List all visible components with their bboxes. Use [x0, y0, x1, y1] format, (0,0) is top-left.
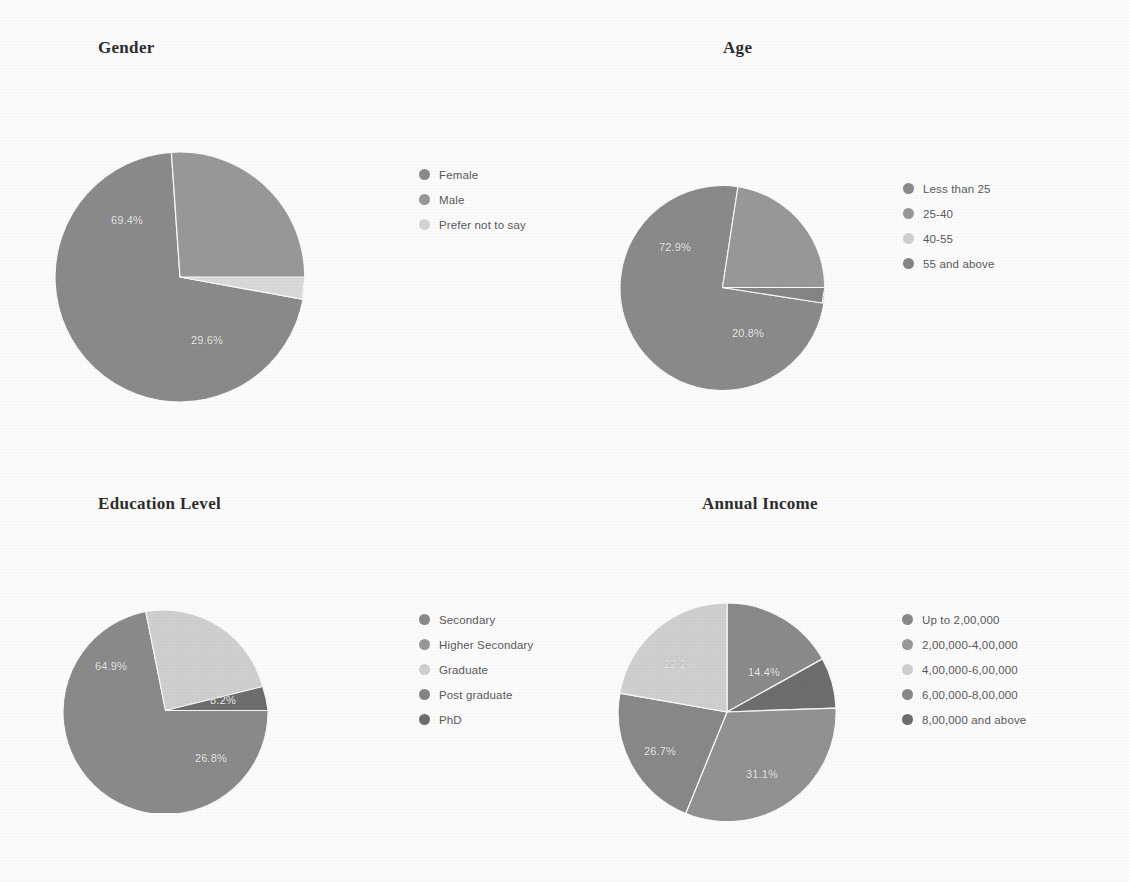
pie-label-4-to-6-lakh: 31.1% — [746, 768, 778, 780]
figure-sheet: Gender 69.4% 29.6% Female Male — [0, 0, 1130, 882]
chart-title-education: Education Level — [98, 494, 221, 514]
legend-swatch-2-to-4-lakh — [902, 639, 913, 650]
legend-swatch-up-to-2-lakh — [902, 614, 913, 625]
legend-gender: Female Male Prefer not to say — [419, 164, 526, 239]
legend-label-prefer-not-to-say: Prefer not to say — [439, 219, 526, 231]
legend-item-male[interactable]: Male — [419, 189, 526, 210]
legend-age: Less than 25 25-40 40-55 55 and above — [903, 178, 995, 278]
legend-item-secondary[interactable]: Secondary — [419, 609, 533, 630]
pie-gender-svg — [55, 152, 305, 402]
pie-label-female: 69.4% — [111, 214, 143, 226]
legend-item-40-55[interactable]: 40-55 — [903, 228, 995, 249]
legend-label-post-graduate: Post graduate — [439, 689, 513, 701]
legend-swatch-4-to-6-lakh — [902, 664, 913, 675]
legend-item-graduate[interactable]: Graduate — [419, 659, 533, 680]
legend-item-post-graduate[interactable]: Post graduate — [419, 684, 533, 705]
legend-swatch-male — [419, 194, 430, 205]
pie-label-graduate: 26.8% — [195, 752, 227, 764]
legend-swatch-prefer-not-to-say — [419, 219, 430, 230]
pie-age: 72.9% 20.8% — [620, 185, 825, 390]
legend-swatch-secondary — [419, 614, 430, 625]
legend-item-less-than-25[interactable]: Less than 25 — [903, 178, 995, 199]
pie-label-male: 29.6% — [191, 334, 223, 346]
chart-title-age: Age — [723, 38, 752, 58]
legend-item-higher-secondary[interactable]: Higher Secondary — [419, 634, 533, 655]
legend-label-40-55: 40-55 — [923, 233, 953, 245]
legend-label-less-than-25: Less than 25 — [923, 183, 991, 195]
legend-swatch-55-and-above — [903, 258, 914, 269]
legend-label-female: Female — [439, 169, 478, 181]
legend-item-4-to-6-lakh[interactable]: 4,00,000-6,00,000 — [902, 659, 1026, 680]
legend-label-4-to-6-lakh: 4,00,000-6,00,000 — [922, 664, 1018, 676]
legend-label-secondary: Secondary — [439, 614, 495, 626]
legend-income: Up to 2,00,000 2,00,000-4,00,000 4,00,00… — [902, 609, 1026, 734]
pie-education-svg — [63, 608, 268, 813]
pie-slice-25-40[interactable] — [723, 187, 825, 301]
legend-swatch-25-40 — [903, 208, 914, 219]
legend-label-up-to-2-lakh: Up to 2,00,000 — [922, 614, 1000, 626]
pie-label-8-lakh-and-above: 22.2% — [664, 658, 696, 670]
pie-label-25-40: 20.8% — [732, 327, 764, 339]
legend-item-up-to-2-lakh[interactable]: Up to 2,00,000 — [902, 609, 1026, 630]
pie-label-secondary: 64.9% — [95, 660, 127, 672]
legend-swatch-phd — [419, 714, 430, 725]
legend-item-2-to-4-lakh[interactable]: 2,00,000-4,00,000 — [902, 634, 1026, 655]
legend-item-female[interactable]: Female — [419, 164, 526, 185]
pie-gender: 69.4% 29.6% — [55, 152, 305, 402]
legend-swatch-less-than-25 — [903, 183, 914, 194]
legend-item-phd[interactable]: PhD — [419, 709, 533, 730]
pie-income: 14.4% 31.1% 26.7% 22.2% — [618, 603, 836, 821]
legend-swatch-post-graduate — [419, 689, 430, 700]
legend-swatch-female — [419, 169, 430, 180]
chart-panel-age: Age 72.9% 20.8% Less than 25 2 — [565, 0, 1130, 441]
pie-label-up-to-2-lakh: 14.4% — [748, 666, 780, 678]
legend-item-25-40[interactable]: 25-40 — [903, 203, 995, 224]
pie-education: 64.9% 26.8% 8.2% — [63, 608, 268, 813]
legend-swatch-40-55 — [903, 233, 914, 244]
legend-label-higher-secondary: Higher Secondary — [439, 639, 533, 651]
legend-education: Secondary Higher Secondary Graduate Post… — [419, 609, 533, 734]
chart-panel-income: Annual Income 14.4% 31.1% 26.7% 22.2% — [565, 441, 1130, 882]
chart-title-income: Annual Income — [702, 494, 818, 514]
legend-item-6-to-8-lakh[interactable]: 6,00,000-8,00,000 — [902, 684, 1026, 705]
legend-swatch-6-to-8-lakh — [902, 689, 913, 700]
legend-label-6-to-8-lakh: 6,00,000-8,00,000 — [922, 689, 1018, 701]
legend-label-phd: PhD — [439, 714, 462, 726]
legend-swatch-graduate — [419, 664, 430, 675]
legend-label-8-lakh-and-above: 8,00,000 and above — [922, 714, 1026, 726]
pie-label-less-than-25: 72.9% — [659, 241, 691, 253]
legend-swatch-8-lakh-and-above — [902, 714, 913, 725]
chart-panel-education: Education Level 64.9% 26.8% 8.2% Seconda… — [0, 441, 565, 882]
pie-income-svg — [618, 603, 836, 821]
pie-label-6-to-8-lakh: 26.7% — [644, 745, 676, 757]
chart-title-gender: Gender — [98, 38, 155, 58]
chart-panel-gender: Gender 69.4% 29.6% Female Male — [0, 0, 565, 441]
legend-label-55-and-above: 55 and above — [923, 258, 995, 270]
legend-label-male: Male — [439, 194, 465, 206]
pie-age-svg — [620, 185, 825, 390]
legend-item-prefer-not-to-say[interactable]: Prefer not to say — [419, 214, 526, 235]
legend-item-8-lakh-and-above[interactable]: 8,00,000 and above — [902, 709, 1026, 730]
legend-label-2-to-4-lakh: 2,00,000-4,00,000 — [922, 639, 1018, 651]
legend-label-25-40: 25-40 — [923, 208, 953, 220]
legend-label-graduate: Graduate — [439, 664, 488, 676]
pie-label-phd: 8.2% — [210, 694, 236, 706]
legend-item-55-and-above[interactable]: 55 and above — [903, 253, 995, 274]
legend-swatch-higher-secondary — [419, 639, 430, 650]
